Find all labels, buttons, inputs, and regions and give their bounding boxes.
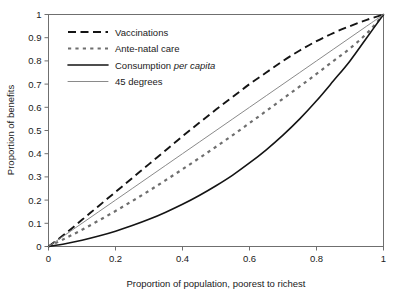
legend-label: Vaccinations [115, 27, 168, 38]
y-tick-label: 0.9 [28, 32, 41, 43]
y-tick-label: 0.1 [28, 218, 41, 229]
x-tick-label: 1 [381, 253, 386, 264]
y-tick-label: 0.3 [28, 171, 41, 182]
y-axis-title: Proportion of benefits [5, 85, 16, 176]
y-tick-label: 0 [36, 241, 41, 252]
x-tick-label: 0 [46, 253, 51, 264]
y-tick-label: 0.7 [28, 79, 41, 90]
y-tick-label: 0.6 [28, 102, 41, 113]
legend-label: Ante-natal care [115, 43, 179, 54]
x-axis-ticks: 00.20.40.60.81 [46, 247, 386, 264]
x-tick-label: 0.4 [176, 253, 189, 264]
y-tick-label: 0.5 [28, 125, 41, 136]
chart-canvas: 00.20.40.60.81 00.10.20.30.40.50.60.70.8… [0, 0, 398, 297]
x-axis-title: Proportion of population, poorest to ric… [126, 278, 305, 289]
legend-label: Consumption per capita [115, 60, 215, 71]
legend-label: 45 degrees [115, 76, 163, 87]
x-tick-label: 0.2 [109, 253, 122, 264]
y-tick-label: 0.8 [28, 55, 41, 66]
y-tick-label: 0.2 [28, 195, 41, 206]
lorenz-curve-chart: 00.20.40.60.81 00.10.20.30.40.50.60.70.8… [0, 0, 398, 297]
y-tick-label: 0.4 [28, 148, 41, 159]
x-tick-label: 0.8 [310, 253, 323, 264]
y-tick-label: 1 [36, 9, 41, 20]
chart-legend: VaccinationsAnte-natal careConsumption p… [68, 27, 215, 88]
x-tick-label: 0.6 [243, 253, 256, 264]
y-axis-ticks: 00.10.20.30.40.50.60.70.80.91 [28, 9, 48, 252]
